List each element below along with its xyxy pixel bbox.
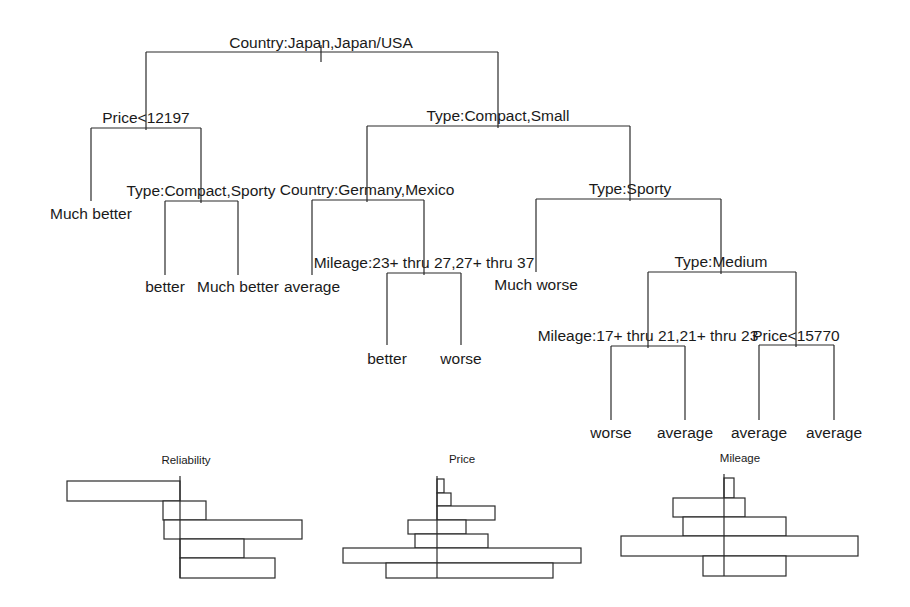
histogram-bar: [437, 493, 451, 506]
split-node-label: Type:Medium: [674, 253, 767, 270]
histogram-bar: [67, 481, 180, 501]
histogram-bar: [343, 548, 581, 563]
leaf-label: worse: [589, 424, 631, 441]
leaf-label: Much better: [50, 205, 132, 222]
histogram-bar: [437, 506, 495, 520]
panel-title: Reliability: [161, 454, 210, 466]
histogram-bar: [180, 558, 275, 578]
panel-title: Mileage: [720, 452, 760, 464]
split-node-label: Type:Compact,Small: [427, 107, 570, 124]
histogram-bar: [673, 498, 745, 517]
split-node-label: Price<15770: [752, 327, 840, 344]
histogram-bar: [164, 520, 302, 539]
leaf-label: average: [284, 278, 340, 295]
histogram-panel-price: Price: [343, 453, 581, 578]
split-node-label: Price<12197: [102, 109, 189, 126]
histogram-bar: [437, 479, 444, 493]
decision-tree-diagram: Country:Japan,Japan/USAPrice<12197Type:C…: [0, 0, 910, 607]
leaf-label: Much worse: [494, 276, 578, 293]
split-node-label: Type:Sporty: [589, 180, 672, 197]
leaf-label: Much better: [197, 278, 279, 295]
histogram-bar: [180, 539, 244, 558]
split-node-label: Mileage:23+ thru 27,27+ thru 37: [314, 254, 535, 271]
histogram-bar: [724, 478, 734, 498]
panel-title: Price: [449, 453, 475, 465]
histogram-bar: [163, 501, 206, 520]
variable-histogram-panels: ReliabilityPriceMileage: [67, 452, 858, 578]
split-node-label: Country:Japan,Japan/USA: [229, 34, 413, 51]
histogram-panel-reliability: Reliability: [67, 454, 302, 578]
histogram-bar: [683, 517, 786, 536]
histogram-bar: [386, 563, 553, 578]
histogram-bar: [621, 536, 858, 556]
leaf-label: average: [806, 424, 862, 441]
split-node-label: Country:Germany,Mexico: [280, 181, 455, 198]
leaf-label: better: [145, 278, 185, 295]
leaf-label: better: [367, 350, 407, 367]
tree-node-labels: Country:Japan,Japan/USAPrice<12197Type:C…: [102, 34, 840, 344]
histogram-panel-mileage: Mileage: [621, 452, 858, 576]
histogram-bar: [415, 534, 488, 548]
leaf-label: average: [657, 424, 713, 441]
tree-leaf-labels: Much betterbetterMuch betteraveragebette…: [50, 205, 862, 441]
split-node-label: Mileage:17+ thru 21,21+ thru 23: [538, 327, 759, 344]
histogram-bar: [703, 556, 786, 576]
split-node-label: Type:Compact,Sporty: [126, 182, 275, 199]
leaf-label: worse: [439, 350, 481, 367]
leaf-label: average: [731, 424, 787, 441]
